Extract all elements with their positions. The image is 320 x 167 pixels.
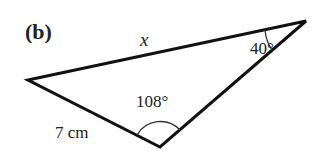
side-x-label: x xyxy=(140,29,148,51)
angle-108-label: 108° xyxy=(136,92,168,112)
part-label: (b) xyxy=(25,19,52,45)
side-7cm-label: 7 cm xyxy=(55,123,89,143)
angle-40-label: 40° xyxy=(250,39,274,59)
angle-arc-108 xyxy=(137,122,180,135)
